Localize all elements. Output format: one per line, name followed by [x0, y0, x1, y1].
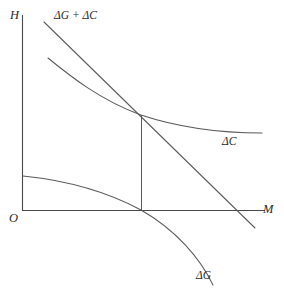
origin-label: O [9, 212, 18, 225]
vertical-axis-label: H [10, 9, 19, 22]
horizontal-axis-label: M [263, 203, 273, 216]
dg-curve [23, 176, 213, 285]
sum-curve [44, 22, 255, 228]
dc-curve-label: ΔC [222, 136, 236, 148]
dg-curve-label: ΔG [196, 270, 211, 282]
dc-curve [48, 58, 262, 133]
diagram-canvas [0, 0, 284, 295]
economics-diagram: H O M ΔG + ΔC ΔC ΔG [0, 0, 284, 295]
sum-curve-label: ΔG + ΔC [54, 10, 97, 22]
